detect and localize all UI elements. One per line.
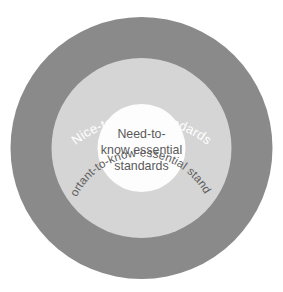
diagram-canvas: Nice-to-know standards Important-to-know…: [0, 0, 283, 292]
concentric-circles-diagram: Nice-to-know standards Important-to-know…: [0, 0, 283, 292]
inner-circle-label-line-3: standards: [114, 159, 168, 173]
inner-circle-label-line-2: know essential: [101, 143, 182, 157]
inner-circle-label-line-1: Need-to-: [117, 127, 165, 141]
